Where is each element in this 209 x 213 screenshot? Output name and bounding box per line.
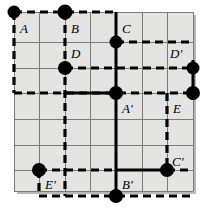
label-A: A	[19, 21, 28, 36]
lattice-diagram: A B C D D′ A′ E C′ E′ B′	[0, 0, 209, 213]
label-D: D	[70, 46, 81, 61]
label-E: E	[172, 101, 181, 116]
label-B-prime: B′	[122, 177, 133, 192]
label-C-prime: C′	[172, 154, 184, 169]
dot-Ep	[32, 163, 46, 177]
dot-C	[110, 36, 123, 49]
dot-D	[58, 61, 72, 75]
dot-Dp	[187, 62, 200, 75]
figure-canvas: A B C D D′ A′ E C′ E′ B′	[0, 0, 209, 213]
dot-Bp	[109, 189, 123, 203]
label-A-prime: A′	[121, 101, 133, 116]
label-C: C	[122, 21, 131, 36]
label-E-prime: E′	[44, 177, 56, 192]
label-B: B	[71, 21, 79, 36]
dot-B	[58, 5, 73, 20]
dot-A	[8, 6, 21, 19]
dot-E	[186, 86, 200, 100]
label-D-prime: D′	[169, 46, 182, 61]
dot-Ap	[109, 86, 123, 100]
